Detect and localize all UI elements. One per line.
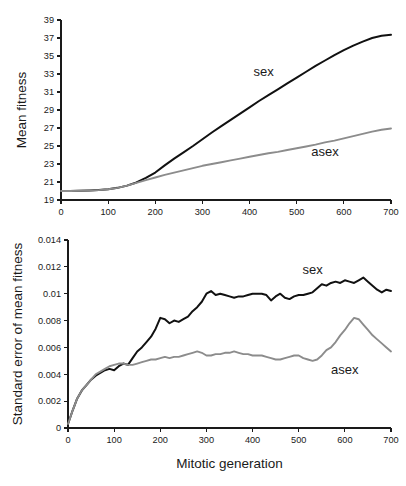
data-group (68, 278, 391, 424)
series-label-asex: asex (311, 144, 339, 159)
y-tick-label: 29 (44, 105, 54, 115)
x-axis-title: Mitotic generation (176, 456, 283, 471)
x-tick-label: 500 (291, 435, 306, 445)
y-tick-label: 0.002 (38, 396, 61, 406)
x-tick-label: 0 (65, 435, 70, 445)
x-tick-label: 400 (245, 435, 260, 445)
y-tick-label: 0.004 (38, 370, 61, 380)
panel-mean-fitness: 1921232527293133353739010020030040050060… (0, 0, 406, 222)
x-tick-label: 100 (100, 207, 115, 217)
y-tick-label: 27 (44, 123, 54, 133)
x-tick-label: 400 (242, 207, 257, 217)
y-tick-label: 31 (44, 87, 54, 97)
series-label-sex: sex (254, 64, 275, 79)
x-tick-label: 700 (383, 435, 398, 445)
y-tick-label: 0.01 (43, 289, 61, 299)
series-label-asex: asex (331, 362, 359, 377)
y-tick-label: 0.006 (38, 343, 61, 353)
y-tick-label: 23 (44, 159, 54, 169)
axes-group: 1921232527293133353739010020030040050060… (14, 15, 399, 217)
panel-standard-error: 00.0020.0040.0060.0080.010.0120.01401002… (0, 222, 406, 486)
mean-fitness-chart: 1921232527293133353739010020030040050060… (0, 0, 406, 222)
curve-sex (68, 278, 391, 424)
x-tick-label: 300 (195, 207, 210, 217)
x-tick-label: 600 (337, 435, 352, 445)
x-tick-label: 200 (153, 435, 168, 445)
axes-group: 00.0020.0040.0060.0080.010.0120.01401002… (10, 235, 399, 471)
y-tick-label: 0 (56, 423, 61, 433)
figure-container: 1921232527293133353739010020030040050060… (0, 0, 406, 486)
x-tick-label: 200 (148, 207, 163, 217)
y-tick-label: 19 (44, 195, 54, 205)
y-axis-title: Standard error of mean fitness (10, 243, 25, 426)
series-label-sex: sex (302, 262, 323, 277)
x-tick-label: 0 (58, 207, 63, 217)
x-tick-label: 100 (106, 435, 121, 445)
y-tick-label: 21 (44, 177, 54, 187)
y-tick-label: 0.012 (38, 262, 61, 272)
data-group (61, 35, 391, 191)
y-axis-title: Mean fitness (14, 71, 29, 148)
x-tick-label: 500 (289, 207, 304, 217)
x-tick-label: 600 (336, 207, 351, 217)
x-tick-label: 700 (383, 207, 398, 217)
curve-sex (61, 35, 391, 191)
y-tick-label: 0.014 (38, 235, 61, 245)
y-tick-label: 35 (44, 51, 54, 61)
y-tick-label: 0.008 (38, 316, 61, 326)
x-tick-label: 300 (199, 435, 214, 445)
y-tick-label: 33 (44, 69, 54, 79)
y-tick-label: 25 (44, 141, 54, 151)
y-tick-label: 39 (44, 15, 54, 25)
y-tick-label: 37 (44, 33, 54, 43)
curve-asex (61, 128, 391, 191)
standard-error-chart: 00.0020.0040.0060.0080.010.0120.01401002… (0, 222, 406, 486)
